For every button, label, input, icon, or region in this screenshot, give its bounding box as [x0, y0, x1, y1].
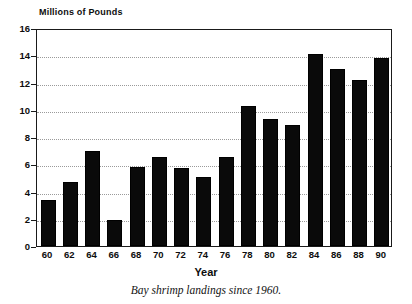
y-axis-tick-mark	[31, 193, 36, 194]
chart-figure: Millions of Pounds 1614121086420 6062646…	[0, 0, 412, 304]
plot-area	[37, 30, 391, 246]
bar	[63, 182, 78, 246]
bar	[263, 119, 278, 246]
bar	[196, 177, 211, 246]
bar	[107, 220, 122, 246]
y-axis-tick-label: 4	[4, 188, 30, 198]
y-axis-tick-mark	[31, 56, 36, 57]
y-axis-tick-label: 14	[4, 51, 30, 61]
bar	[41, 200, 56, 246]
y-axis-tick-label: 8	[4, 133, 30, 143]
y-axis-tick-label: 2	[4, 215, 30, 225]
bar	[241, 106, 256, 246]
gridline	[37, 57, 391, 58]
y-axis-tick-mark	[31, 138, 36, 139]
y-axis-tick-mark	[31, 84, 36, 85]
bar	[308, 54, 323, 246]
x-axis-title: Year	[0, 266, 412, 278]
plot-frame	[36, 29, 392, 247]
y-axis-tick-mark	[31, 29, 36, 30]
bar	[85, 151, 100, 246]
y-axis-tick-mark	[31, 220, 36, 221]
y-axis-tick-label: 10	[4, 106, 30, 116]
x-axis-tick-label: 90	[367, 250, 395, 260]
y-axis-tick-mark	[31, 111, 36, 112]
y-axis-tick-mark	[31, 247, 36, 248]
bar	[285, 125, 300, 246]
bar	[219, 157, 234, 246]
y-axis-title: Millions of Pounds	[39, 7, 123, 17]
bar	[152, 157, 167, 246]
bar	[352, 80, 367, 246]
bar	[374, 58, 389, 246]
bar	[130, 167, 145, 246]
y-axis-tick-label: 6	[4, 160, 30, 170]
y-axis-tick-label: 12	[4, 79, 30, 89]
y-axis-tick-label: 0	[4, 242, 30, 252]
bar	[330, 69, 345, 246]
figure-caption: Bay shrimp landings since 1960.	[0, 284, 412, 296]
bar	[174, 168, 189, 246]
y-axis-tick-label: 16	[4, 24, 30, 34]
y-axis-tick-mark	[31, 165, 36, 166]
